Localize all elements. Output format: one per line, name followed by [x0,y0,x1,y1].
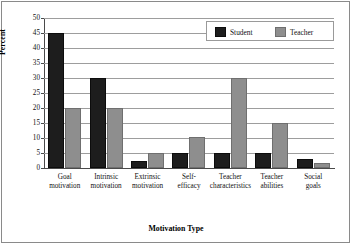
y-axis-tick-mark [41,168,44,169]
y-axis-tick-label: 50 [18,15,40,22]
bar-student[interactable] [214,153,230,168]
chart-legend: StudentTeacher [206,21,334,41]
bar-student[interactable] [90,78,106,168]
chart-figure: Percent 50454035302520151050 Goalmotivat… [0,0,352,245]
legend-label: Student [230,28,253,37]
legend-label: Teacher [290,28,313,37]
bar-group [85,18,126,168]
y-axis-tick-label: 35 [18,60,40,67]
x-axis-title: Motivation Type [0,224,352,233]
bar-student[interactable] [255,153,271,168]
x-axis-tick-label-line: Social [287,173,340,182]
legend-item-teacher[interactable]: Teacher [275,26,313,38]
legend-swatch-icon [215,27,226,37]
y-axis-tick-label: 45 [18,30,40,37]
y-axis-tick-label: 25 [18,90,40,97]
bar-teacher[interactable] [148,153,164,168]
y-axis-tick-label: 0 [18,165,40,172]
y-axis-tick-label: 20 [18,105,40,112]
x-axis-tick-label-line: goals [287,182,340,191]
x-axis-line [44,168,335,169]
legend-item-student[interactable]: Student [215,26,253,38]
y-axis-tick-label: 5 [18,150,40,157]
bar-teacher[interactable] [314,163,330,168]
y-axis-tick-label: 15 [18,120,40,127]
y-axis-title: Percent [0,12,7,72]
bar-group [168,18,209,168]
y-axis-tick-label: 40 [18,45,40,52]
legend-swatch-icon [275,27,286,37]
bar-teacher[interactable] [107,108,123,168]
bar-student[interactable] [172,153,188,168]
bar-teacher[interactable] [65,108,81,168]
y-axis-tick-label: 10 [18,135,40,142]
bar-teacher[interactable] [189,137,205,169]
x-axis-tick-label: Socialgoals [287,173,340,192]
bar-teacher[interactable] [231,78,247,168]
bar-teacher[interactable] [272,123,288,168]
bar-student[interactable] [48,33,64,168]
bar-student[interactable] [131,161,147,169]
bar-group [44,18,85,168]
y-axis-tick-label: 30 [18,75,40,82]
bar-group [127,18,168,168]
bar-student[interactable] [297,159,313,168]
